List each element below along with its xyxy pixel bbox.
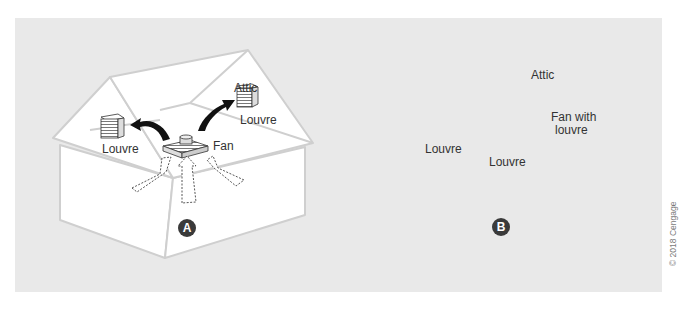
badge-b: B [492,218,510,236]
label-fan-a: Fan [213,140,234,153]
copyright-notice: © 2018 Cengage [668,202,678,266]
attic-ventilation-figure: Attic Louvre Louvre Fan A Attic Louvre L… [0,0,690,310]
label-attic-a: Attic [234,82,257,95]
label-fan-b-line2: louvre [555,124,588,137]
label-attic-b: Attic [531,69,554,82]
label-louvre-b-gable: Louvre [425,143,462,156]
label-louvre-a-left: Louvre [102,143,139,156]
badge-a: A [178,219,196,237]
label-louvre-a-right: Louvre [240,114,277,127]
louvre-icon [101,114,124,138]
label-louvre-b-ceiling: Louvre [489,156,526,169]
